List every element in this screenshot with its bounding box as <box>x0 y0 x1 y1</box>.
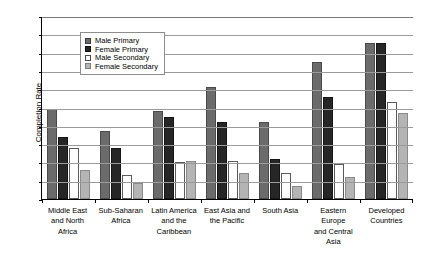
bar <box>376 43 386 199</box>
bar <box>164 117 174 199</box>
x-tick-mark <box>148 199 149 203</box>
legend-item: Female Primary <box>85 46 158 54</box>
bar <box>323 97 333 199</box>
bar <box>69 148 79 199</box>
legend-label: Female Primary <box>95 46 148 54</box>
bar <box>133 183 143 199</box>
gridline <box>42 127 413 128</box>
bar <box>217 122 227 199</box>
x-tick-mark <box>42 199 43 203</box>
y-tick-mark <box>39 72 42 73</box>
x-tick-label: South Asia <box>254 206 307 247</box>
x-tick-label: DevelopedCountries <box>360 206 413 247</box>
x-tick-mark <box>201 199 202 203</box>
x-tick-label: Middle Eastand NorthAfrica <box>41 206 94 247</box>
y-tick-mark <box>39 35 42 36</box>
bar <box>259 122 269 199</box>
legend-label: Male Secondary <box>95 54 149 62</box>
gridline <box>42 145 413 146</box>
bar <box>111 148 121 199</box>
legend-label: Male Primary <box>95 37 139 45</box>
gridline <box>42 182 413 183</box>
legend-swatch <box>85 46 91 52</box>
legend-item: Male Secondary <box>85 54 158 62</box>
legend-swatch <box>85 63 91 69</box>
y-tick-mark <box>39 17 42 18</box>
y-tick-mark <box>39 54 42 55</box>
legend-label: Female Secondary <box>95 63 158 71</box>
bar <box>281 173 291 199</box>
y-tick-mark <box>39 182 42 183</box>
bar <box>239 173 249 199</box>
y-tick-mark <box>39 200 42 201</box>
bar <box>100 131 110 199</box>
x-tick-mark <box>254 199 255 203</box>
bar <box>47 109 57 199</box>
x-tick-mark <box>95 199 96 203</box>
x-tick-label: Eastern Europeand CentralAsia <box>307 206 360 247</box>
gridline <box>42 109 413 110</box>
bar <box>292 186 302 199</box>
x-tick-label: Sub-SaharanAfrica <box>94 206 147 247</box>
x-tick-mark <box>307 199 308 203</box>
bar <box>270 159 280 199</box>
bar <box>58 137 68 199</box>
x-tick-mark <box>412 199 413 203</box>
y-tick-mark <box>39 109 42 110</box>
bar <box>345 177 355 199</box>
gridline <box>42 90 413 91</box>
bar <box>153 111 163 199</box>
gridline <box>42 17 413 18</box>
completion-rate-bar-chart: Completion Rate 1009080706050403020100 M… <box>0 0 422 256</box>
bar <box>186 161 196 199</box>
bar <box>228 161 238 199</box>
chart-legend: Male PrimaryFemale PrimaryMale Secondary… <box>80 32 165 75</box>
legend-swatch <box>85 38 91 44</box>
bar <box>122 175 132 199</box>
x-tick-label: East Asia andthe Pacific <box>200 206 253 247</box>
gridline <box>42 163 413 164</box>
y-tick-mark <box>39 90 42 91</box>
y-tick-mark <box>39 127 42 128</box>
x-axis-labels: Middle Eastand NorthAfricaSub-SaharanAfr… <box>41 206 413 247</box>
legend-item: Female Secondary <box>85 63 158 71</box>
bar <box>312 62 322 199</box>
x-tick-label: Latin Americaand theCaribbean <box>147 206 200 247</box>
y-tick-mark <box>39 145 42 146</box>
bar <box>365 43 375 199</box>
legend-swatch <box>85 55 91 61</box>
x-tick-mark <box>360 199 361 203</box>
bar <box>80 170 90 199</box>
bar <box>387 102 397 199</box>
legend-item: Male Primary <box>85 37 158 45</box>
y-tick-mark <box>39 163 42 164</box>
